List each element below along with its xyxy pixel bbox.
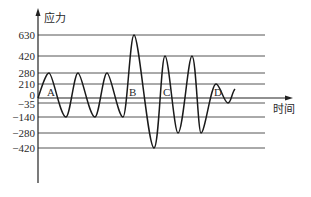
tick-minus280: −280	[12, 127, 35, 139]
y-axis-title: 应力	[44, 11, 66, 25]
tick-minus35: −35	[18, 98, 36, 110]
y-axis-arrow-icon	[36, 8, 41, 16]
stress-time-chart: 应力 时间 630 420 280 210 0 −35 −140 −280 −4…	[0, 0, 311, 197]
tick-minus140: −140	[12, 111, 35, 123]
tick-630: 630	[19, 29, 36, 41]
x-axis-title: 时间	[273, 103, 295, 116]
segment-label-c: C	[163, 86, 170, 98]
segment-label-b: B	[129, 86, 136, 98]
stress-waveform	[38, 35, 235, 148]
tick-minus420: −420	[12, 142, 35, 154]
tick-420: 420	[19, 50, 36, 62]
segment-label-d: D	[214, 86, 222, 98]
x-axis-arrow-icon	[285, 96, 293, 101]
y-tick-labels: 630 420 280 210 0 −35 −140 −280 −420	[12, 29, 35, 154]
segment-label-a: A	[47, 86, 55, 98]
